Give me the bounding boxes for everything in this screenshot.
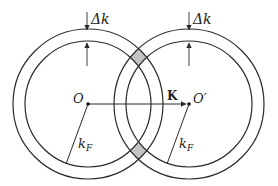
left-kf-label: kF bbox=[78, 136, 93, 153]
right-kf-sub: F bbox=[186, 143, 194, 153]
center-label-o-prime: O′ bbox=[193, 91, 207, 106]
k-vector-label: K bbox=[167, 89, 178, 103]
fermi-shell-diagram: Δk Δk O O′ K kF kF bbox=[0, 0, 278, 186]
left-delta-k-label: Δk bbox=[90, 11, 110, 27]
right-kf-label: kF bbox=[179, 136, 194, 153]
right-kf-k: k bbox=[179, 136, 187, 151]
right-delta-k-label: Δk bbox=[192, 11, 212, 27]
right-radius-line bbox=[167, 104, 189, 164]
left-kf-sub: F bbox=[85, 143, 93, 153]
center-label-o: O bbox=[73, 91, 84, 106]
left-kf-k: k bbox=[78, 136, 86, 151]
left-radius-line bbox=[66, 104, 88, 164]
